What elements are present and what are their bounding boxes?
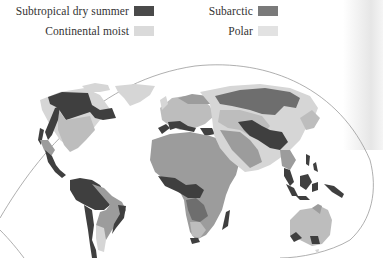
climate-zone-dark <box>222 210 230 230</box>
climate-zone-dark <box>158 124 170 134</box>
world-climate-map <box>0 0 383 258</box>
climate-zone-dark <box>45 150 66 178</box>
climate-zone-dark <box>313 162 318 172</box>
region-south-america <box>70 178 126 258</box>
climate-zone-pale <box>115 84 155 106</box>
climate-zone-dark <box>312 182 318 192</box>
region-australia <box>290 204 332 254</box>
region-europe <box>158 94 215 136</box>
climate-zone-dark <box>324 184 344 198</box>
region-north-america <box>38 88 116 178</box>
climate-zone-dark <box>284 168 294 186</box>
climate-zone-dark <box>296 196 310 200</box>
climate-zone-dark <box>306 154 310 166</box>
climate-zone-dark <box>190 238 200 244</box>
climate-zone-dark <box>286 184 298 196</box>
climate-zone-mid <box>280 150 296 170</box>
climate-zone-dark <box>300 174 312 190</box>
climate-zone-dark <box>84 205 97 258</box>
